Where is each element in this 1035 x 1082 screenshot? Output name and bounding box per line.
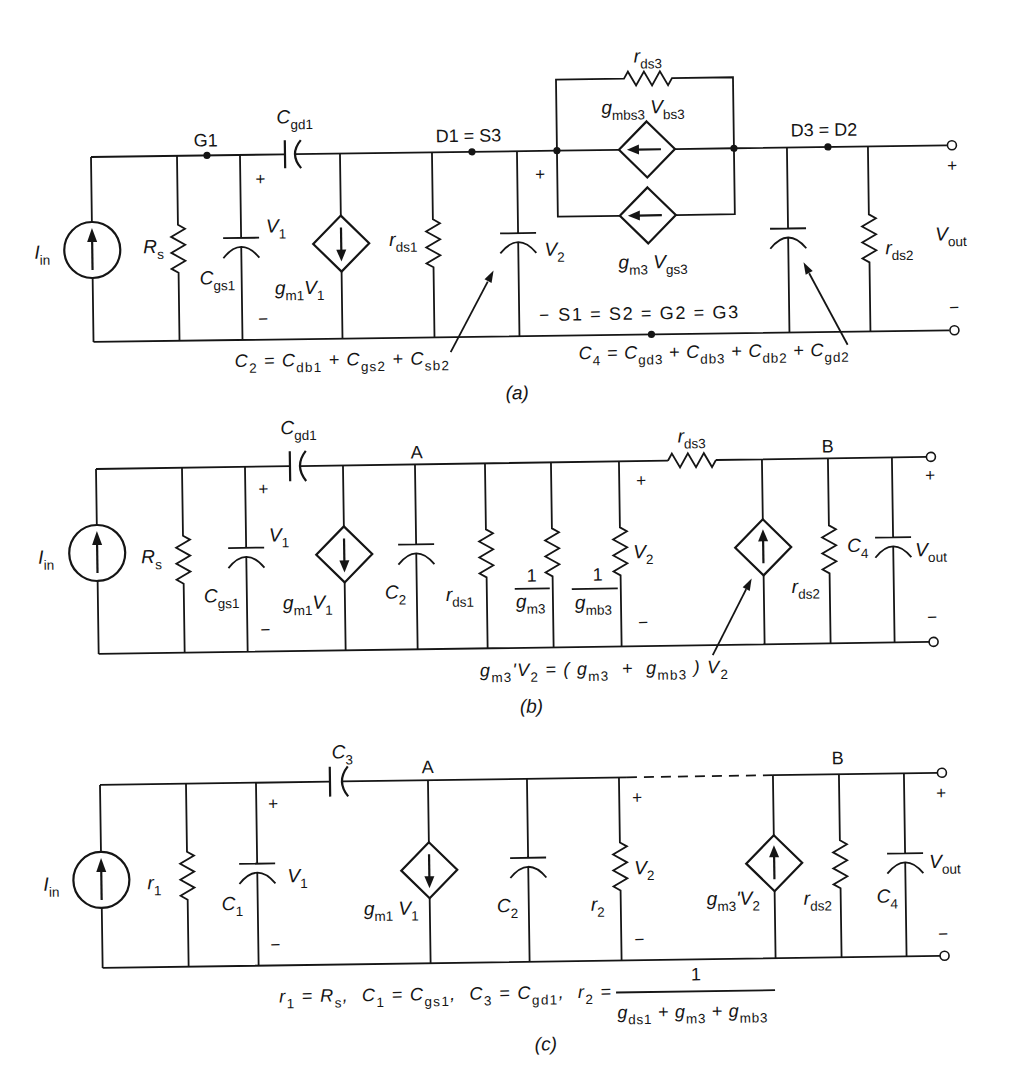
definitions-text: r1 = Rs, C1 = Cgs1, C3 = Cgd1, r2 = (279, 982, 611, 1012)
label-c1: C1 (222, 893, 244, 919)
label-v2: V2 (634, 857, 655, 883)
vout-plus-sign: + (947, 156, 957, 175)
dashed-connection (627, 775, 773, 777)
resistor-rds2 (821, 458, 838, 643)
r2-fraction-bar (616, 990, 775, 992)
v2-plus-sign: + (636, 471, 646, 490)
v2-minus-sign: − (634, 930, 644, 949)
label-rds1: rds1 (389, 229, 417, 255)
dependent-source-gm3-prime (745, 775, 804, 959)
v2-minus-sign: − (638, 613, 648, 632)
label-inv-gm3-denominator: gm3 (516, 590, 546, 616)
output-terminal-plus (937, 768, 946, 777)
label-d1-s3: D1 = S3 (436, 125, 502, 146)
v1-minus-sign: − (260, 620, 270, 639)
label-node-a: A (411, 442, 423, 462)
label-rds1: rds1 (446, 584, 474, 610)
dependent-source-gm1v1 (315, 465, 374, 651)
current-source-iin (73, 852, 130, 909)
resistor-rds3 (668, 453, 716, 468)
vout-plus-sign: + (925, 466, 935, 485)
output-terminal-plus (926, 452, 935, 461)
capacitor-c2 (499, 151, 538, 336)
vout-minus-sign: − (927, 608, 937, 627)
label-common-node: S1 = S2 = G2 = G3 (558, 302, 738, 324)
v1-minus-sign: − (258, 310, 268, 329)
label-rs: Rs (141, 546, 162, 572)
resistor-r2 (612, 777, 629, 960)
label-r2: r2 (591, 894, 605, 920)
current-source-iin (69, 525, 126, 582)
label-cgs1: Cgs1 (200, 267, 236, 293)
label-c2: C2 (385, 582, 407, 608)
label-v1: V1 (269, 524, 290, 550)
resistor-rds2 (832, 774, 849, 957)
label-iin: Iin (34, 242, 50, 268)
vout-plus-sign: + (936, 784, 946, 803)
label-vout: Vout (915, 539, 947, 565)
label-r1: r1 (147, 872, 161, 898)
label-rs: Rs (143, 236, 164, 262)
pointer-arrow-gm3-prime (712, 578, 753, 655)
label-gm1v1: gm1V1 (283, 592, 333, 619)
dependent-source-gm3 (557, 148, 735, 244)
vout-minus-sign: − (949, 298, 959, 317)
dependent-source-gm1v1 (400, 780, 459, 964)
label-gm1v1: gm1V1 (275, 277, 325, 304)
output-terminal-minus (950, 326, 959, 335)
label-gm3-vgs3: gm3 Vgs3 (618, 251, 687, 278)
label-iin: Iin (43, 874, 59, 900)
label-rds3: rds3 (634, 45, 662, 71)
label-c2: C2 (497, 895, 519, 921)
resistor-rds1 (478, 463, 495, 648)
annotation-c4: C4 = Cgd3 + Cdb3 + Cdb2 + Cgd2 (579, 340, 849, 369)
label-d3-d2: D3 = D2 (791, 120, 858, 141)
node-dot-d3-d2 (824, 143, 831, 150)
circuit-c: Iin r1 C1 + V1 − C3 A gm1 V1 C2 + V2 r2 … (41, 733, 963, 1062)
label-node-b: B (822, 436, 834, 456)
label-node-b: B (832, 748, 844, 768)
label-cgd1: Cgd1 (280, 417, 317, 444)
output-terminal-minus (940, 951, 949, 960)
caption-c: (c) (535, 1033, 557, 1054)
node-dot-ground (648, 331, 655, 338)
v1-minus-sign: − (270, 935, 280, 954)
capacitor-c2 (397, 464, 436, 650)
circuit-a: Iin Rs G1 + V1 Cgs1 − Cgd1 gm1V1 rds1 D1… (32, 41, 969, 410)
resistor-inv-gm3 (544, 462, 561, 647)
v2-minus-sign: − (539, 306, 549, 325)
capacitor-c4 (886, 773, 925, 957)
v1-plus-sign: + (255, 170, 265, 189)
resistor-rds1 (425, 152, 442, 337)
output-terminal-minus (929, 637, 938, 646)
annotation-c2: C2 = Cdb1 + Cgs2 + Csb2 (235, 348, 449, 376)
label-inv-gmb3-denominator: gmb3 (575, 592, 612, 619)
label-c4: C4 (847, 535, 869, 561)
resistor-inv-gmb3 (612, 461, 629, 646)
label-v2: V2 (544, 239, 565, 265)
wires (96, 457, 930, 654)
label-inv-gm3-numerator: 1 (526, 566, 536, 586)
label-v2: V2 (633, 541, 654, 567)
dependent-source-gm1v1 (312, 153, 371, 339)
node-dot-d1-s3 (468, 148, 475, 155)
fraction-bar-gmb3 (572, 588, 618, 589)
label-c3: C3 (331, 741, 353, 767)
capacitor-c4 (769, 147, 808, 332)
label-rds2: rds2 (792, 576, 820, 602)
current-source-iin (64, 222, 121, 279)
label-g1: G1 (194, 130, 218, 150)
v1-plus-sign: + (258, 479, 268, 498)
wires (91, 145, 949, 342)
caption-a: (a) (505, 382, 529, 403)
label-vout: Vout (929, 851, 961, 877)
resistor-rds2 (861, 146, 878, 331)
v1-plus-sign: + (268, 794, 278, 813)
output-terminal-plus (947, 141, 956, 150)
dependent-source-gm3-prime (734, 459, 793, 645)
v2-plus-sign: + (535, 165, 545, 184)
capacitor-c2 (509, 779, 548, 963)
label-inv-gmb3-numerator: 1 (592, 565, 602, 585)
wires (100, 773, 941, 968)
node-dot-g1 (203, 152, 210, 159)
